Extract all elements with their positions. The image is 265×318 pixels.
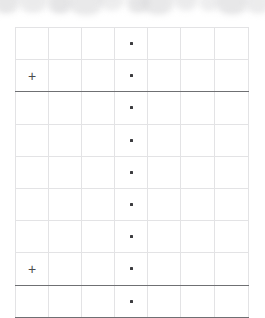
dot-icon (130, 106, 133, 109)
dot-mark-cell[interactable] (115, 221, 148, 253)
empty-cell[interactable] (82, 285, 115, 317)
empty-cell[interactable] (82, 253, 115, 285)
empty-cell-content (82, 189, 114, 220)
dot-icon (130, 74, 133, 77)
empty-cell[interactable] (181, 60, 215, 92)
empty-cell[interactable] (215, 221, 249, 253)
empty-cell[interactable] (215, 28, 249, 60)
empty-cell[interactable] (49, 156, 82, 188)
empty-cell-content (215, 286, 248, 317)
empty-cell[interactable] (215, 124, 249, 156)
empty-cell[interactable] (215, 285, 249, 317)
empty-cell[interactable] (215, 60, 249, 92)
empty-cell[interactable] (215, 188, 249, 220)
table-row: + (16, 60, 249, 92)
empty-cell-content (49, 157, 81, 188)
empty-cell[interactable] (82, 92, 115, 124)
empty-cell[interactable] (16, 285, 49, 317)
artifact-fade (0, 11, 265, 24)
empty-cell[interactable] (16, 124, 49, 156)
empty-cell-content (82, 125, 114, 156)
empty-cell[interactable] (49, 60, 82, 92)
empty-cell-content (16, 157, 48, 188)
empty-cell[interactable] (49, 221, 82, 253)
empty-cell-content (49, 189, 81, 220)
empty-cell[interactable] (16, 221, 49, 253)
empty-cell[interactable] (82, 28, 115, 60)
empty-cell[interactable] (148, 253, 181, 285)
empty-cell[interactable] (49, 124, 82, 156)
table-row (16, 156, 249, 188)
empty-cell-content (148, 221, 180, 252)
dot-mark-cell[interactable] (115, 60, 148, 92)
empty-cell-content (82, 253, 114, 284)
empty-cell[interactable] (49, 28, 82, 60)
dot-mark-cell[interactable] (115, 92, 148, 124)
empty-cell[interactable] (148, 60, 181, 92)
empty-cell[interactable] (215, 156, 249, 188)
empty-cell[interactable] (181, 28, 215, 60)
empty-cell-content (215, 221, 248, 252)
empty-cell-content (181, 92, 214, 123)
scan-blob (174, 0, 198, 11)
empty-cell-content (49, 253, 81, 284)
empty-cell[interactable] (148, 156, 181, 188)
dot-mark-cell[interactable] (115, 188, 148, 220)
dot-mark-cell[interactable] (115, 253, 148, 285)
empty-cell[interactable] (181, 156, 215, 188)
empty-cell-content (49, 92, 81, 123)
empty-cell[interactable] (215, 253, 249, 285)
dot-mark-cell[interactable] (115, 124, 148, 156)
empty-cell-content (16, 92, 48, 123)
empty-cell-content (49, 60, 81, 91)
empty-cell-content (215, 125, 248, 156)
empty-cell[interactable] (82, 60, 115, 92)
empty-cell[interactable] (181, 188, 215, 220)
empty-cell[interactable] (16, 156, 49, 188)
empty-cell-content (215, 253, 248, 284)
empty-cell[interactable] (82, 156, 115, 188)
empty-cell-content (148, 92, 180, 123)
empty-cell[interactable] (82, 124, 115, 156)
empty-cell[interactable] (181, 285, 215, 317)
dot-mark-cell[interactable] (115, 285, 148, 317)
empty-cell-content (148, 157, 180, 188)
empty-cell[interactable] (148, 188, 181, 220)
empty-cell[interactable] (16, 92, 49, 124)
empty-cell[interactable] (49, 285, 82, 317)
empty-cell[interactable] (148, 92, 181, 124)
empty-cell-content (148, 286, 180, 317)
empty-cell[interactable] (82, 221, 115, 253)
empty-cell[interactable] (215, 92, 249, 124)
empty-cell-content (82, 28, 114, 59)
empty-cell-content (16, 221, 48, 252)
empty-cell[interactable] (49, 253, 82, 285)
empty-cell[interactable] (181, 124, 215, 156)
plus-mark-cell[interactable]: + (16, 60, 49, 92)
empty-cell[interactable] (49, 92, 82, 124)
empty-cell[interactable] (148, 28, 181, 60)
scan-blob (99, 0, 125, 11)
plus-mark-cell[interactable]: + (16, 253, 49, 285)
empty-cell-content (16, 125, 48, 156)
empty-cell-content (82, 60, 114, 91)
empty-cell[interactable] (82, 188, 115, 220)
empty-cell[interactable] (148, 124, 181, 156)
empty-cell-content (181, 125, 214, 156)
dot-mark-cell[interactable] (115, 156, 148, 188)
empty-cell[interactable] (16, 188, 49, 220)
empty-cell[interactable] (49, 188, 82, 220)
empty-cell-content (49, 286, 81, 317)
empty-cell[interactable] (181, 92, 215, 124)
dot-icon (130, 235, 133, 238)
empty-cell-content (215, 92, 248, 123)
dot-mark-cell[interactable] (115, 28, 148, 60)
empty-cell[interactable] (148, 221, 181, 253)
empty-cell[interactable] (181, 221, 215, 253)
empty-cell-content (49, 28, 81, 59)
empty-cell-content (215, 60, 248, 91)
empty-cell[interactable] (148, 285, 181, 317)
table-row (16, 92, 249, 124)
empty-cell[interactable] (16, 28, 49, 60)
empty-cell[interactable] (181, 253, 215, 285)
